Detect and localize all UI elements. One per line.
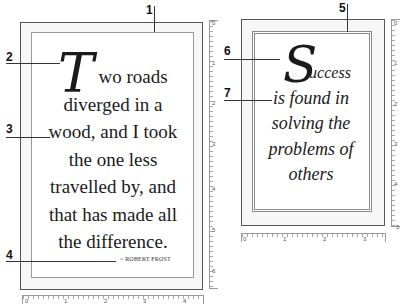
quote-line: the difference. [30, 228, 196, 256]
ruler-label: 5 [212, 227, 215, 233]
callout-6-leader [224, 59, 280, 60]
callout-3-leader [6, 137, 50, 138]
ruler-label: 0 [25, 298, 28, 304]
ruler-label: 2 [104, 298, 107, 304]
callout-4-leader [6, 261, 116, 262]
quote-line: that has made all [30, 201, 196, 229]
ruler-label: 5 [396, 224, 399, 230]
ruler-label: 1 [64, 298, 67, 304]
ruler-label: 6 [212, 268, 215, 274]
ruler-label: 0 [243, 236, 246, 242]
callout-3: 3 [6, 122, 13, 136]
quote-author: ~ ROBERT FROST [120, 256, 171, 262]
callout-1: 1 [146, 3, 153, 17]
quote-line: diverged in a [30, 91, 196, 119]
quote-line: wood, and I took [30, 118, 196, 146]
callout-2-leader [6, 63, 60, 64]
callout-6: 6 [224, 44, 231, 58]
quote-line: is found in [252, 86, 370, 112]
callout-4: 4 [6, 248, 13, 262]
right-quote: uccess is found in solving the problems … [252, 50, 370, 188]
ruler-label: 4 [394, 181, 397, 187]
left-bottom-ruler [22, 295, 204, 304]
ruler-label: 3 [212, 141, 215, 147]
ruler-label: 0 [394, 20, 397, 26]
ruler-label: 0 [212, 20, 215, 26]
ruler-label: 1 [283, 236, 286, 242]
quote-line: others [252, 162, 370, 188]
callout-7: 7 [224, 86, 231, 100]
ruler-label: 2 [212, 100, 215, 106]
callout-5: 5 [339, 1, 346, 15]
ruler-label: 1 [212, 60, 215, 66]
ruler-label: 4 [183, 298, 186, 304]
callout-5-leader [347, 4, 348, 32]
callout-7-leader [224, 100, 272, 101]
quote-line: uccess [252, 60, 370, 86]
right-right-ruler [391, 19, 400, 227]
ruler-label: 3 [143, 298, 146, 304]
ruler-label: 2 [394, 101, 397, 107]
quote-line: wo roads [30, 63, 196, 91]
callout-2: 2 [6, 50, 13, 64]
ruler-label: 1 [394, 60, 397, 66]
quote-line: solving the [252, 111, 370, 137]
ruler-label: 2 [323, 236, 326, 242]
ruler-label: 3 [363, 236, 366, 242]
quote-line: travelled by, and [30, 173, 196, 201]
ruler-label: 3 [394, 141, 397, 147]
left-quote: wo roads diverged in a wood, and I took … [30, 55, 196, 256]
ruler-label: 4 [212, 186, 215, 192]
callout-1-leader [154, 6, 155, 32]
quote-line: problems of [252, 137, 370, 163]
quote-line: the one less [30, 146, 196, 174]
